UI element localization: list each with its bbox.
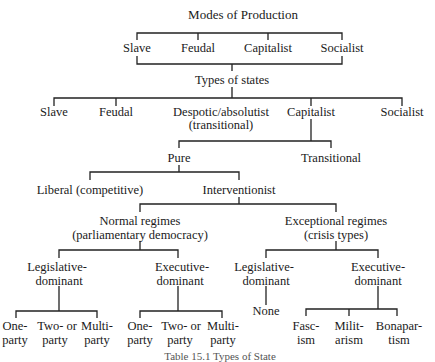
mode-capitalist: Capitalist	[244, 41, 292, 55]
exceptional-regimes-sub: (crisis types)	[304, 228, 368, 242]
leaf-multi-party-sub: party	[84, 333, 110, 347]
normal-executive: Executive-	[155, 260, 209, 274]
modes-of-production-title: Modes of Production	[188, 8, 298, 22]
state-feudal: Feudal	[99, 105, 133, 119]
leaf-two-party: Two- or	[37, 319, 77, 333]
exceptional-executive: Executive-	[351, 260, 405, 274]
exceptional-executive-sub: dominant	[354, 274, 401, 288]
exceptional-regimes: Exceptional regimes	[285, 214, 387, 228]
capitalist-pure: Pure	[168, 151, 191, 165]
leaf-multi-party: Multi-	[207, 319, 239, 333]
normal-regimes: Normal regimes	[100, 214, 181, 228]
normal-regimes-sub: (parliamentary democracy)	[72, 228, 208, 242]
leaf-bonapartism-sub: tism	[388, 333, 410, 347]
leaf-militarism-sub: arism	[335, 333, 363, 347]
state-socialist: Socialist	[380, 105, 423, 119]
mode-slave: Slave	[123, 41, 151, 55]
leaf-one-party: One-	[3, 319, 28, 333]
state-slave: Slave	[40, 105, 68, 119]
normal-executive-sub: dominant	[156, 274, 203, 288]
state-despotic: Despotic/absolutist	[173, 105, 269, 119]
leaf-militarism: Milit-	[334, 319, 363, 333]
leaf-two-party: Two- or	[161, 319, 201, 333]
leaf-none: None	[252, 304, 279, 318]
leaf-fascism: Fasc-	[292, 319, 319, 333]
mode-feudal: Feudal	[181, 41, 215, 55]
leaf-bonapartism: Bonapar-	[376, 319, 422, 333]
pure-liberal: Liberal (competitive)	[37, 183, 144, 197]
leaf-one-party: One-	[128, 319, 153, 333]
leaf-one-party-sub: party	[127, 333, 153, 347]
pure-interventionist: Interventionist	[203, 183, 276, 197]
mode-socialist: Socialist	[320, 41, 363, 55]
leaf-multi-party: Multi-	[81, 319, 113, 333]
capitalist-transitional: Transitional	[301, 151, 361, 165]
leaf-fascism-sub: ism	[297, 333, 315, 347]
types-of-states-heading: Types of states	[195, 73, 269, 87]
state-capitalist: Capitalist	[287, 105, 335, 119]
figure-caption: Table 15.1 Types of State	[164, 350, 276, 362]
leaf-one-party-sub: party	[2, 333, 28, 347]
normal-legislative: Legislative-	[27, 260, 87, 274]
normal-legislative-sub: dominant	[35, 274, 82, 288]
leaf-two-party-sub: party	[167, 333, 193, 347]
state-despotic-sub: (transitional)	[189, 118, 254, 132]
exceptional-legislative-sub: dominant	[242, 274, 289, 288]
exceptional-legislative: Legislative-	[234, 260, 294, 274]
leaf-multi-party-sub: party	[210, 333, 236, 347]
leaf-two-party-sub: party	[42, 333, 68, 347]
